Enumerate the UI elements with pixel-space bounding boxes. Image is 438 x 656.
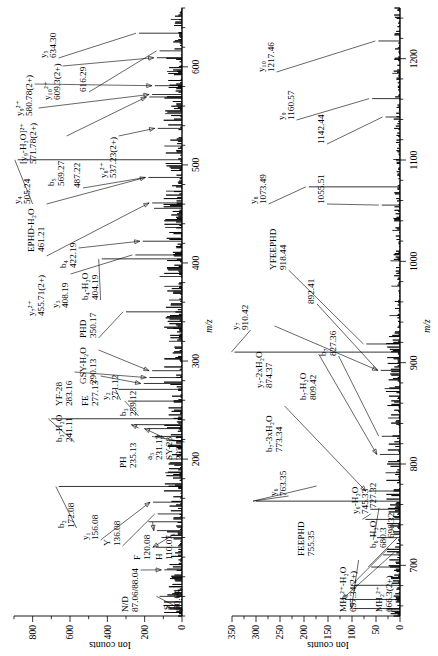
figure-root: 2003004005006000200400600800 S60.04N/D87…	[0, 0, 438, 656]
annotation-ion-name: y₈	[248, 196, 258, 204]
annotation-ion-name: YFEEPHD	[268, 228, 278, 270]
annotation-ion-name: a₃	[144, 453, 154, 460]
peak-annotation: b₄422.19	[58, 242, 78, 268]
peak-annotation: y₇910.42	[230, 304, 250, 330]
annotation-ion-name: MH₂²⁺	[374, 586, 384, 612]
peak-annotation: y₁₀1217.46	[256, 42, 276, 72]
annotation-mz-value: 87.06/88.04	[130, 568, 140, 612]
peak-annotation: y₈1073.49	[248, 174, 268, 204]
annotation-ion-name: PHD	[78, 319, 88, 338]
annotation-ion-name: MH₂²⁺-H₂O	[338, 566, 348, 612]
peak-annotation: y₆-H₂O745.33	[350, 486, 370, 514]
panel-b-annotations: MH₂²⁺-H₂O657.34(2+)MH₂²⁺666.3(2+)b₆-H₂O6…	[230, 42, 396, 612]
annotation-mz-value: 773.34	[274, 426, 284, 452]
annotation-ion-name: H	[154, 553, 164, 560]
annotation-mz-value: 487.22	[72, 162, 82, 188]
annotation-ion-name: y₇-2xH₂O	[254, 351, 264, 388]
peak-annotation: y₇²⁺455.71(2+)	[26, 275, 46, 316]
panel-a-y-tick: 400	[102, 625, 113, 640]
peak-annotation: 1142.44	[316, 114, 326, 144]
peak-annotation: N/D87.06/88.04	[120, 568, 140, 612]
peak-annotation: F120.08	[132, 534, 152, 560]
annotation-ion-name: b₇-H₂O	[298, 372, 308, 400]
peak-annotation: 1055.51	[316, 174, 326, 204]
peak-annotation: b₃259.12	[118, 390, 138, 416]
panel-b-y-tick: 350	[226, 625, 237, 640]
annotation-ion-name: b₃-H₂O	[54, 414, 64, 442]
peak-annotation: y₇-2xH₂O874.37	[254, 351, 274, 388]
panel-b-x-tick: 1000	[408, 252, 419, 271]
panel-a-y-tick: 0	[176, 625, 187, 630]
annotation-mz-value: 1055.51	[316, 174, 326, 204]
annotation-ion-name: y₈²⁺	[98, 162, 108, 178]
annotation-ion-name: b₇-3xH₂O	[264, 415, 274, 452]
annotation-mz-value: 657.34(2+)	[348, 571, 358, 612]
annotation-mz-value: 277.13	[90, 380, 100, 406]
annotation-mz-value: 120.08	[142, 534, 152, 560]
panel-b-y-tick: 250	[274, 625, 285, 640]
peak-annotation: b₇-H₂O809.42	[298, 372, 318, 400]
peak-annotation: b₅569.27	[46, 160, 66, 186]
panel-b-y-tick: 200	[298, 625, 309, 640]
panel-a-svg: 2003004005006000200400600800 S60.04N/D87…	[0, 0, 220, 656]
annotation-ion-name: F	[132, 555, 142, 560]
annotation-ion-name: GSY-H₂O	[78, 347, 88, 384]
peak-annotation: 892.41	[306, 278, 316, 304]
annotation-mz-value: 505.24	[22, 178, 32, 204]
annotation-ion-name: b₄-H₂O	[80, 272, 90, 300]
peak-annotation: S60.04	[162, 589, 182, 610]
panel-a-x-tick: 200	[190, 452, 201, 467]
peak-annotation: b₇827.36	[318, 330, 338, 356]
annotation-mz-value: 698.32	[386, 512, 396, 538]
panel-b-y-tick: 50	[370, 625, 381, 635]
annotation-ion-name: y₉²⁺	[14, 100, 24, 116]
peak-annotation: y₉1160.57	[276, 90, 296, 120]
annotation-mz-value: 537.23(2+)	[108, 137, 118, 178]
annotation-mz-value: 156.08	[90, 514, 100, 540]
annotation-mz-value: 271.12	[110, 374, 120, 400]
peak-annotation: FE277.13	[80, 380, 100, 406]
annotation-mz-value: 1142.44	[316, 114, 326, 144]
peak-annotation: Y136.08	[102, 520, 122, 546]
peak-annotation: y₅634.30	[38, 32, 58, 58]
mass-spectrum-panel-b: 7008009001000110012000501001502002503003…	[218, 0, 438, 656]
annotation-ion-name: y₁	[80, 532, 90, 540]
annotation-mz-value: 290.13	[88, 358, 98, 384]
annotation-mz-value: 634.30	[48, 32, 58, 58]
annotation-mz-value: 1160.57	[286, 90, 296, 120]
annotation-mz-value: 259.12	[128, 390, 138, 416]
annotation-mz-value: 745.33	[360, 488, 370, 514]
annotation-mz-value: 874.37	[264, 362, 274, 388]
annotation-mz-value: 892.41	[306, 278, 316, 304]
panel-b-y-tick: 150	[322, 625, 333, 640]
peak-annotation: EPHD-H₂O461.21	[26, 208, 46, 252]
peak-annotation: YF-28283.16	[54, 380, 74, 406]
annotation-mz-value: 910.42	[240, 304, 250, 330]
peak-annotation: PHD350.17	[78, 312, 98, 338]
annotation-mz-value: 827.36	[328, 330, 338, 356]
annotation-ion-name: [y₉-H₂O]²⁺	[18, 123, 28, 164]
peak-annotation: y₉²⁺580.78(2+)	[14, 75, 34, 116]
annotation-ion-name: b₂	[56, 520, 66, 528]
peak-annotation: [y₉-H₂O]²⁺571.78(2+)	[18, 123, 38, 164]
annotation-mz-value: 755.35	[306, 530, 316, 556]
peak-annotation: 616.29	[78, 66, 88, 92]
peak-annotation: GSY-H₂O290.13	[78, 347, 98, 384]
peak-annotation: b₆-H₂O680.3	[368, 520, 388, 548]
mass-spectrum-panel-a: 2003004005006000200400600800 S60.04N/D87…	[0, 0, 220, 656]
panel-b-svg: 7008009001000110012000501001502002503003…	[218, 0, 438, 656]
peak-annotation: b₃-H₂O241.11	[54, 414, 74, 442]
annotation-ion-name: y₁₀²⁺	[42, 81, 52, 100]
peak-annotation: y₃408.19	[50, 282, 70, 308]
annotation-mz-value: 235.13	[128, 442, 138, 468]
annotation-mz-value: 569.27	[56, 160, 66, 186]
annotation-mz-value: 422.19	[68, 242, 78, 268]
annotation-ion-name: b₆-H₂O	[368, 520, 378, 548]
peak-annotation: y₄505.24	[12, 178, 32, 204]
annotation-ion-name: y₅	[38, 50, 48, 58]
annotation-mz-value: 580.78(2+)	[24, 75, 34, 116]
annotation-ion-name: y₃	[50, 300, 60, 308]
peak-annotation: b₂172.08	[56, 502, 76, 528]
panel-a-y-tick: 800	[27, 625, 38, 640]
annotation-ion-name: y₇	[230, 322, 240, 330]
